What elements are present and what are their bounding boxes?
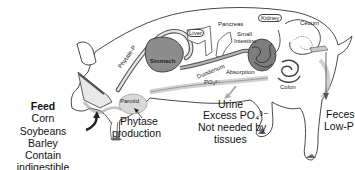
absorption-label: Absorption [226, 69, 255, 75]
kidney-label: Kidney [258, 14, 282, 22]
small-intestine-label-2: Intestine [234, 38, 257, 44]
feces-label-1: Feces [326, 109, 355, 120]
urine-label-4: tissues [214, 134, 247, 145]
colon-label: Colon [280, 84, 296, 90]
pancreas-label: Pancreas [218, 21, 243, 27]
parotid-label: Parotid [120, 98, 139, 104]
feed-title: Feed [2, 100, 84, 112]
duodenum-po4-label: PO₄³⁻ [204, 79, 220, 85]
feed-panel: Feed Corn Soybeans Barley Contain indige… [2, 100, 84, 170]
urine-label-2: Excess PO₄³⁻ [203, 110, 269, 121]
urine-label-3: Not needed by [198, 122, 266, 133]
feed-item: Barley [2, 137, 84, 149]
feed-item: Contain indigestible [2, 149, 84, 170]
stomach-label: Stomach [150, 58, 175, 64]
feed-item: Soybeans [2, 125, 84, 137]
liver-label: Liver [187, 29, 204, 37]
phytase-label-2: production [112, 128, 161, 139]
feed-arrow [86, 116, 96, 130]
urine-label-1: Urine [218, 99, 243, 110]
phytase-label-1: Phytase [120, 116, 158, 127]
cecum-label: Cecum [300, 20, 319, 26]
feces-label-2: Low-P [324, 121, 354, 132]
pig-ear [77, 42, 96, 65]
feed-item: Corn [2, 112, 84, 124]
small-intestine-label-1: Small [237, 31, 252, 37]
